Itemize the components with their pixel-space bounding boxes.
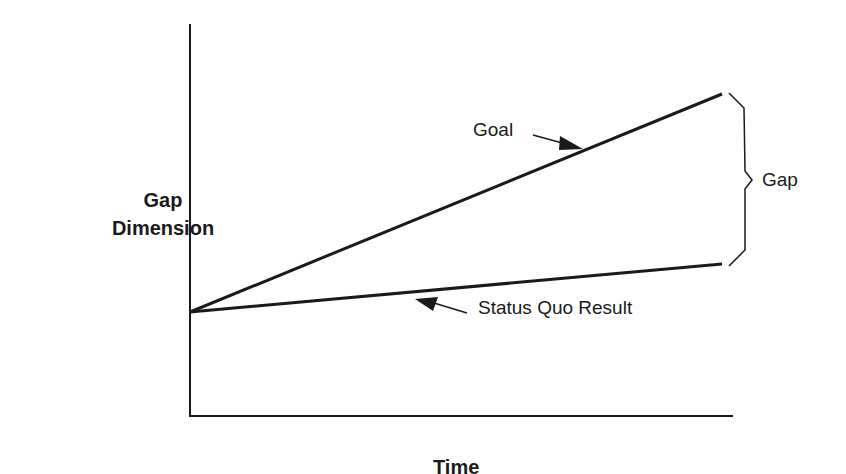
status-quo-label: Status Quo Result (478, 298, 632, 317)
y-axis-label-line1: Gap (110, 186, 216, 214)
gap-label: Gap (762, 170, 798, 189)
goal-label: Goal (473, 120, 513, 139)
goal-arrow-icon (533, 135, 583, 150)
status-quo-arrow-icon (415, 297, 467, 313)
y-axis-label-line2: Dimension (110, 214, 216, 242)
gap-brace-icon (729, 93, 752, 266)
gap-diagram: Gap Dimension Time Goal Status Quo Resul… (0, 0, 846, 474)
y-axis-label: Gap Dimension (110, 186, 216, 242)
status-quo-line (190, 264, 722, 312)
x-axis-label: Time (433, 457, 479, 474)
goal-line (190, 94, 722, 312)
